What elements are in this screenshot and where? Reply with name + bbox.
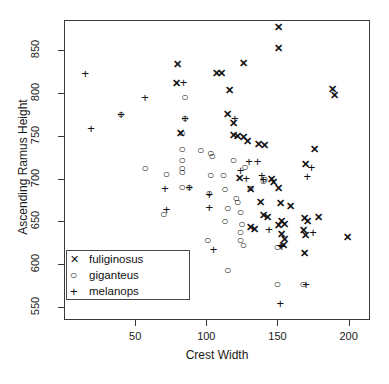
x-tick-mark — [349, 320, 350, 326]
legend: ✕fuliginosus○giganteus+melanops — [66, 250, 190, 300]
data-point-fuliginosus: ✕ — [243, 135, 252, 146]
data-point-giganteus: ○ — [224, 264, 231, 276]
data-point-fuliginosus: ✕ — [256, 196, 265, 207]
data-point-melanops: + — [210, 242, 218, 255]
data-point-melanops: + — [87, 122, 95, 135]
data-point-giganteus: ○ — [197, 144, 204, 156]
legend-label-fuliginosus: fuliginosus — [89, 253, 143, 265]
x-tick-label: 100 — [186, 330, 226, 342]
x-tick-mark — [135, 320, 136, 326]
data-point-melanops: + — [161, 182, 169, 195]
legend-label-giganteus: giganteus — [89, 269, 139, 281]
x-tick-mark — [206, 320, 207, 326]
data-point-fuliginosus: ✕ — [330, 89, 339, 100]
data-point-melanops: + — [265, 223, 273, 236]
data-point-fuliginosus: ✕ — [269, 177, 278, 188]
data-point-giganteus: ○ — [274, 278, 281, 290]
y-tick-label: 850 — [29, 32, 41, 66]
legend-symbol-melanops: + — [67, 284, 89, 299]
data-point-melanops: + — [205, 200, 213, 213]
data-point-fuliginosus: ✕ — [274, 21, 283, 32]
data-point-melanops: + — [180, 75, 188, 88]
data-point-melanops: + — [309, 225, 317, 238]
data-point-giganteus: ○ — [220, 169, 227, 181]
y-tick-mark — [58, 307, 64, 308]
data-point-giganteus: ○ — [221, 215, 228, 227]
data-point-melanops: + — [117, 108, 125, 121]
data-point-melanops: + — [254, 154, 262, 167]
y-tick-label: 700 — [29, 161, 41, 195]
data-point-fuliginosus: ✕ — [225, 85, 234, 96]
y-tick-label: 600 — [29, 246, 41, 280]
data-point-giganteus: ○ — [181, 91, 188, 103]
data-point-melanops: + — [141, 91, 149, 104]
legend-entry-giganteus: ○giganteus — [67, 267, 189, 283]
y-tick-label: 550 — [29, 289, 41, 323]
data-point-giganteus: ○ — [179, 127, 186, 139]
data-point-melanops: + — [277, 296, 285, 309]
data-point-fuliginosus: ✕ — [217, 68, 226, 79]
data-point-melanops: + — [308, 160, 316, 173]
data-point-fuliginosus: ✕ — [314, 212, 323, 223]
data-point-giganteus: ○ — [179, 166, 186, 178]
data-point-giganteus: ○ — [208, 150, 215, 162]
data-point-melanops: + — [245, 154, 253, 167]
data-point-fuliginosus: ✕ — [276, 198, 285, 209]
x-tick-label: 150 — [257, 330, 297, 342]
y-tick-mark — [58, 93, 64, 94]
data-point-melanops: + — [181, 111, 189, 124]
data-point-melanops: + — [231, 111, 239, 124]
data-point-fuliginosus: ✕ — [239, 57, 248, 68]
data-point-giganteus: ○ — [221, 183, 228, 195]
data-point-giganteus: ○ — [142, 162, 149, 174]
legend-symbol-fuliginosus: ✕ — [67, 253, 89, 266]
legend-entry-melanops: +melanops — [67, 283, 189, 299]
y-tick-mark — [58, 50, 64, 51]
legend-symbol-giganteus: ○ — [67, 268, 89, 282]
data-point-melanops: + — [302, 278, 310, 291]
y-tick-label: 650 — [29, 203, 41, 237]
data-point-giganteus: ○ — [207, 169, 214, 181]
y-tick-mark — [58, 179, 64, 180]
x-tick-label: 50 — [115, 330, 155, 342]
scatter-plot-figure: 550600650700750800850 50100150200 Ascend… — [0, 0, 389, 384]
data-point-giganteus: ○ — [163, 168, 170, 180]
data-point-fuliginosus: ✕ — [260, 140, 269, 151]
data-point-melanops: + — [185, 181, 193, 194]
data-point-melanops: + — [259, 172, 267, 185]
legend-entry-fuliginosus: ✕fuliginosus — [67, 251, 189, 267]
data-point-fuliginosus: ✕ — [343, 231, 352, 242]
x-tick-label: 200 — [329, 330, 369, 342]
y-tick-mark — [58, 264, 64, 265]
data-point-giganteus: ○ — [224, 202, 231, 214]
data-point-melanops: + — [163, 202, 171, 215]
data-point-melanops: + — [278, 240, 286, 253]
data-point-fuliginosus: ✕ — [300, 248, 309, 259]
data-point-melanops: + — [82, 67, 90, 80]
data-point-giganteus: ○ — [240, 239, 247, 251]
x-tick-mark — [277, 320, 278, 326]
y-tick-label: 800 — [29, 75, 41, 109]
data-point-fuliginosus: ✕ — [250, 224, 259, 235]
legend-label-melanops: melanops — [89, 285, 139, 297]
data-point-fuliginosus: ✕ — [286, 201, 295, 212]
data-point-fuliginosus: ✕ — [274, 43, 283, 54]
data-point-melanops: + — [242, 171, 250, 184]
data-point-fuliginosus: ✕ — [173, 58, 182, 69]
y-tick-mark — [58, 221, 64, 222]
y-tick-mark — [58, 136, 64, 137]
data-point-fuliginosus: ✕ — [310, 143, 319, 154]
y-tick-label: 750 — [29, 118, 41, 152]
x-axis-label: Crest Width — [64, 348, 370, 362]
y-axis-label: Ascending Ramus Height — [16, 77, 30, 257]
